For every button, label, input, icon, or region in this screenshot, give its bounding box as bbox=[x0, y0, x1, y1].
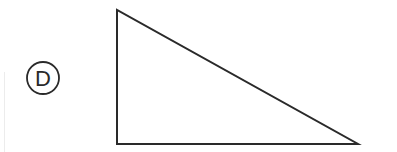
label-letter: D bbox=[35, 66, 51, 91]
diagram-canvas: D bbox=[0, 0, 397, 152]
right-triangle bbox=[117, 10, 358, 144]
option-label-d: D bbox=[27, 62, 59, 94]
